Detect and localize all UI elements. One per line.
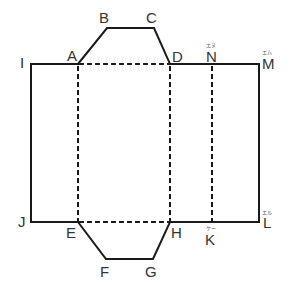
- vertex-label-K: K: [205, 231, 215, 248]
- ruby-K: ケー: [206, 225, 216, 231]
- vertex-label-G: G: [145, 263, 157, 280]
- bottom-flap-outline: [78, 222, 170, 259]
- vertex-label-H: H: [171, 224, 182, 241]
- vertex-label-I: I: [20, 54, 24, 71]
- ruby-L: エル: [262, 209, 272, 215]
- vertex-label-A: A: [67, 47, 77, 64]
- vertex-label-C: C: [146, 9, 157, 26]
- vertex-label-N: N: [206, 48, 217, 65]
- vertex-label-B: B: [99, 9, 109, 26]
- outer-rectangle-outline: [31, 64, 78, 222]
- vertex-label-D: D: [172, 48, 183, 65]
- vertex-label-F: F: [100, 263, 109, 280]
- prism-net-diagram: A B C D I N M J E H K L F G エヌ エム エル ケー: [0, 0, 293, 283]
- top-flap-outline: [78, 28, 170, 64]
- vertex-label-J: J: [18, 213, 26, 230]
- outer-rectangle-right-outline: [170, 64, 259, 222]
- ruby-N: エヌ: [206, 42, 216, 49]
- vertex-label-L: L: [263, 214, 271, 231]
- vertex-label-M: M: [262, 55, 275, 72]
- ruby-M: エム: [262, 49, 272, 55]
- vertex-label-E: E: [66, 224, 76, 241]
